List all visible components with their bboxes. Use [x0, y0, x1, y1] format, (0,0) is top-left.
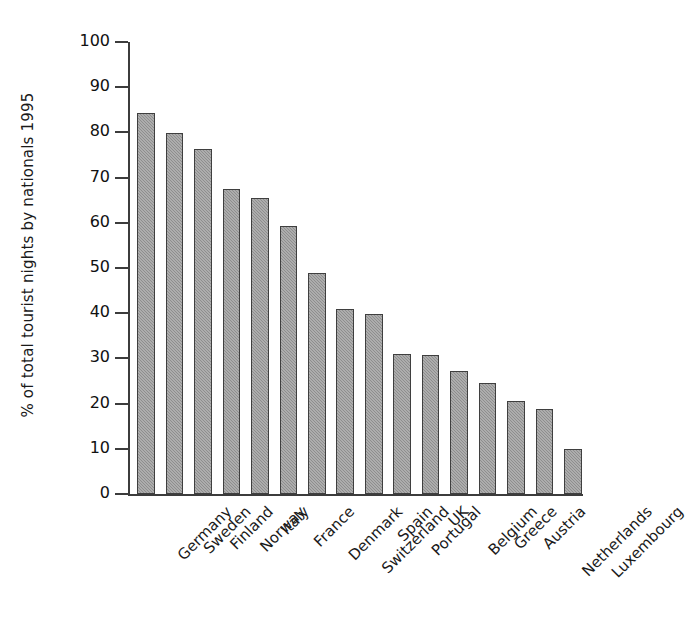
- y-axis-tick-label: 70: [58, 169, 110, 185]
- y-axis-spine: [128, 42, 130, 494]
- y-axis-tick-label: 0: [58, 485, 110, 501]
- bar: [564, 449, 582, 494]
- y-axis-tick: [115, 41, 128, 43]
- x-axis-tick-label: France: [312, 504, 358, 550]
- y-axis-tick-label: 60: [58, 214, 110, 230]
- y-axis-tick-label: 50: [58, 259, 110, 275]
- bar: [479, 383, 497, 494]
- y-axis-tick-label: 20: [58, 395, 110, 411]
- bar: [507, 401, 525, 494]
- y-axis-tick: [115, 131, 128, 133]
- y-axis-top-cap: [128, 42, 130, 44]
- bar: [536, 409, 554, 494]
- y-axis-tick-label: 40: [58, 304, 110, 320]
- bar: [166, 133, 184, 494]
- x-axis-tick-labels: GermanySwedenFinlandNorwayItalyFranceDen…: [128, 502, 583, 627]
- bar: [137, 113, 155, 494]
- bar: [308, 273, 326, 494]
- y-axis-tick: [115, 493, 128, 495]
- y-axis-tick-label: 100: [58, 33, 110, 49]
- y-axis-tick: [115, 403, 128, 405]
- y-axis-tick-label: 10: [58, 440, 110, 456]
- y-axis-tick-label: 90: [58, 78, 110, 94]
- y-axis-title-container: % of total tourist nights by nationals 1…: [0, 0, 56, 510]
- y-axis-tick: [115, 448, 128, 450]
- y-axis-title: % of total tourist nights by nationals 1…: [19, 92, 37, 417]
- bar: [336, 309, 354, 494]
- y-axis-tick: [115, 267, 128, 269]
- y-axis-tick: [115, 357, 128, 359]
- bar: [450, 371, 468, 494]
- bar: [223, 189, 241, 494]
- bar: [365, 314, 383, 494]
- bar: [422, 355, 440, 494]
- y-axis-tick: [115, 86, 128, 88]
- bar: [393, 354, 411, 494]
- bar: [251, 198, 269, 494]
- x-axis-tick-label: Italy: [279, 504, 313, 538]
- bar: [280, 226, 298, 494]
- y-axis-tick: [115, 177, 128, 179]
- plot-area: 1009080706050403020100: [128, 42, 583, 494]
- y-axis-tick: [115, 222, 128, 224]
- bar: [194, 149, 212, 494]
- y-axis-tick: [115, 312, 128, 314]
- y-axis-tick-label: 80: [58, 123, 110, 139]
- x-axis-baseline: [128, 494, 583, 496]
- y-axis-tick-label: 30: [58, 349, 110, 365]
